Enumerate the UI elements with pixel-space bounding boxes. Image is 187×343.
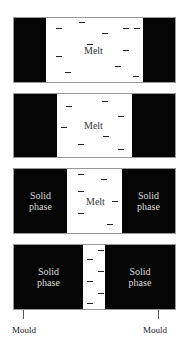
stage-panel-1: Melt xyxy=(13,17,176,83)
melt-particle-dash xyxy=(115,66,121,67)
melt-particle-dash xyxy=(112,201,118,202)
melt-particle-dash xyxy=(56,28,62,29)
melt-particle-dash xyxy=(87,303,93,304)
melt-particle-dash xyxy=(118,116,124,117)
mould-right-leader xyxy=(158,310,159,319)
melt-label: Melt xyxy=(86,196,105,207)
melt-particle-dash xyxy=(78,174,84,175)
melt-particle-dash xyxy=(123,28,129,29)
melt-particle-dash xyxy=(98,250,104,251)
melt-particle-dash xyxy=(101,179,107,180)
melt-particle-dash xyxy=(79,22,85,23)
melt-particle-dash xyxy=(118,149,124,150)
solid-label-line1: Solid xyxy=(14,266,83,277)
melt-particle-dash xyxy=(102,101,108,102)
stage-panel-4: SolidphaseSolidphase xyxy=(13,244,176,310)
stage-panel-2: Melt xyxy=(13,93,176,158)
melt-particle-dash xyxy=(65,72,71,73)
melt-label: Melt xyxy=(84,120,103,131)
solid-label-line1: Solid xyxy=(14,190,67,201)
solid-label-line2: phase xyxy=(14,201,67,212)
right-solid-region xyxy=(143,18,175,82)
melt-particle-dash xyxy=(133,76,139,77)
mould-left-leader xyxy=(23,310,24,319)
solid-label-line1: Solid xyxy=(122,190,175,201)
solid-label-line1: Solid xyxy=(105,266,175,277)
melt-particle-dash xyxy=(78,191,84,192)
melt-particle-dash xyxy=(98,293,104,294)
melt-particle-dash xyxy=(87,281,93,282)
right-solid-region xyxy=(132,94,175,157)
melt-particle-dash xyxy=(78,213,84,214)
right-solid-phase-label: Solidphase xyxy=(122,190,175,212)
melt-particle-dash xyxy=(103,136,109,137)
melt-particle-dash xyxy=(56,56,62,57)
left-solid-region xyxy=(14,94,57,157)
mould-right-label: Mould xyxy=(143,325,167,335)
melt-particle-dash xyxy=(98,271,104,272)
melt-particle-dash xyxy=(61,127,67,128)
melt-particle-dash xyxy=(123,50,129,51)
melt-particle-dash xyxy=(87,259,93,260)
mould-left-label: Mould xyxy=(12,325,36,335)
melt-particle-dash xyxy=(107,224,113,225)
right-solid-phase-label: Solidphase xyxy=(105,266,175,288)
stage-panel-3: MeltSolidphaseSolidphase xyxy=(13,168,176,234)
melt-particle-dash xyxy=(66,106,72,107)
melt-particle-dash xyxy=(102,33,108,34)
solid-label-line2: phase xyxy=(122,201,175,212)
melt-particle-dash xyxy=(134,28,140,29)
melt-particle-dash xyxy=(78,144,84,145)
melt-label: Melt xyxy=(84,45,103,56)
left-solid-phase-label: Solidphase xyxy=(14,190,67,212)
left-solid-region xyxy=(14,18,46,82)
solid-label-line2: phase xyxy=(14,277,83,288)
solid-label-line2: phase xyxy=(105,277,175,288)
left-solid-phase-label: Solidphase xyxy=(14,266,83,288)
